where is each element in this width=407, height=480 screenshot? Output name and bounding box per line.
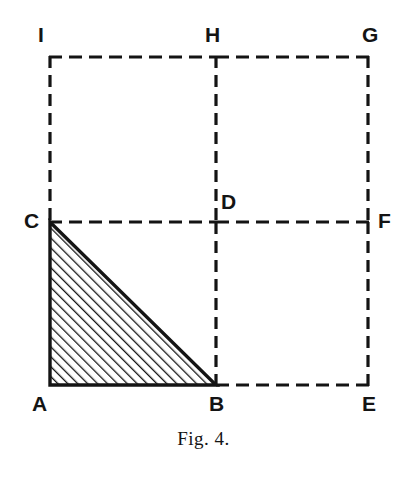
vertex-label-G: G (362, 24, 378, 45)
vertex-label-H: H (205, 24, 220, 45)
figure-caption: Fig. 4. (0, 428, 407, 450)
geometry-figure (0, 0, 407, 480)
vertex-label-C: C (24, 210, 39, 231)
vertex-label-A: A (32, 393, 47, 414)
vertex-label-B: B (209, 393, 224, 414)
vertex-label-E: E (362, 393, 376, 414)
shaded-triangle-ABC (50, 222, 216, 385)
vertex-label-D: D (221, 191, 236, 212)
vertex-label-F: F (378, 210, 391, 231)
vertex-label-I: I (38, 24, 44, 45)
figure-container: I H G C D F A B E Fig. 4. (0, 0, 407, 480)
